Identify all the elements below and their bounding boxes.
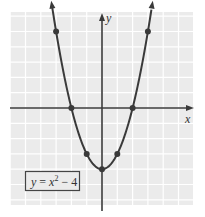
curve-arrow-right-icon — [149, 1, 155, 9]
equation-label: y = x2 − 4 — [30, 174, 77, 189]
data-point — [84, 151, 90, 157]
data-point — [68, 105, 74, 111]
data-point — [145, 29, 151, 35]
data-point — [130, 105, 136, 111]
curve-arrow-left-icon — [49, 1, 55, 9]
x-axis-label: x — [184, 112, 191, 126]
parabola-graph: x y y = x2 − 4 — [0, 0, 205, 217]
data-point — [114, 151, 120, 157]
y-axis-label: y — [105, 11, 112, 25]
data-point — [53, 29, 59, 35]
data-point — [99, 166, 105, 172]
